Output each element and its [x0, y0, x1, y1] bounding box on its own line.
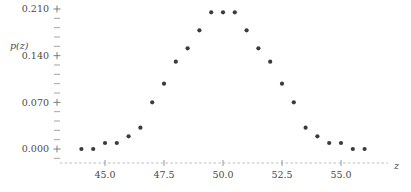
y-axis-tick-label: 0.000: [22, 143, 49, 154]
data-point: [245, 28, 249, 32]
x-axis-tick-label: 55.0: [330, 169, 351, 180]
data-point: [256, 46, 260, 50]
data-point: [221, 10, 225, 14]
y-axis-label: p(z): [10, 40, 29, 51]
data-point: [91, 147, 95, 151]
data-point: [103, 141, 107, 145]
scatter-plot-figure: 0.0000.0700.1400.210 45.047.550.052.555.…: [0, 0, 411, 192]
y-axis-tick-label: 0.140: [22, 50, 49, 61]
data-point: [197, 28, 201, 32]
data-point: [186, 46, 190, 50]
y-axis: 0.0000.0700.1400.210: [22, 3, 61, 158]
y-axis-tick-label: 0.070: [22, 97, 49, 108]
data-point-series: [79, 10, 366, 151]
data-point: [233, 10, 237, 14]
x-axis: 45.047.550.052.555.0: [60, 160, 388, 180]
data-point: [115, 141, 119, 145]
data-point: [150, 100, 154, 104]
data-point: [209, 10, 213, 14]
y-axis-tick-label: 0.210: [22, 3, 49, 14]
data-point: [79, 147, 83, 151]
data-point: [327, 141, 331, 145]
x-axis-label: z: [393, 160, 400, 171]
data-point: [363, 147, 367, 151]
data-point: [280, 82, 284, 86]
data-point: [304, 126, 308, 130]
data-point: [339, 141, 343, 145]
data-point: [351, 147, 355, 151]
plot-canvas: 0.0000.0700.1400.210 45.047.550.052.555.…: [0, 0, 411, 192]
data-point: [174, 60, 178, 64]
data-point: [292, 100, 296, 104]
data-point: [138, 126, 142, 130]
data-point: [315, 134, 319, 138]
x-axis-tick-label: 45.0: [94, 169, 115, 180]
x-axis-tick-label: 52.5: [271, 169, 292, 180]
x-axis-tick-label: 47.5: [153, 169, 174, 180]
x-axis-tick-label: 50.0: [212, 169, 233, 180]
data-point: [162, 82, 166, 86]
data-point: [127, 134, 131, 138]
data-point: [268, 60, 272, 64]
